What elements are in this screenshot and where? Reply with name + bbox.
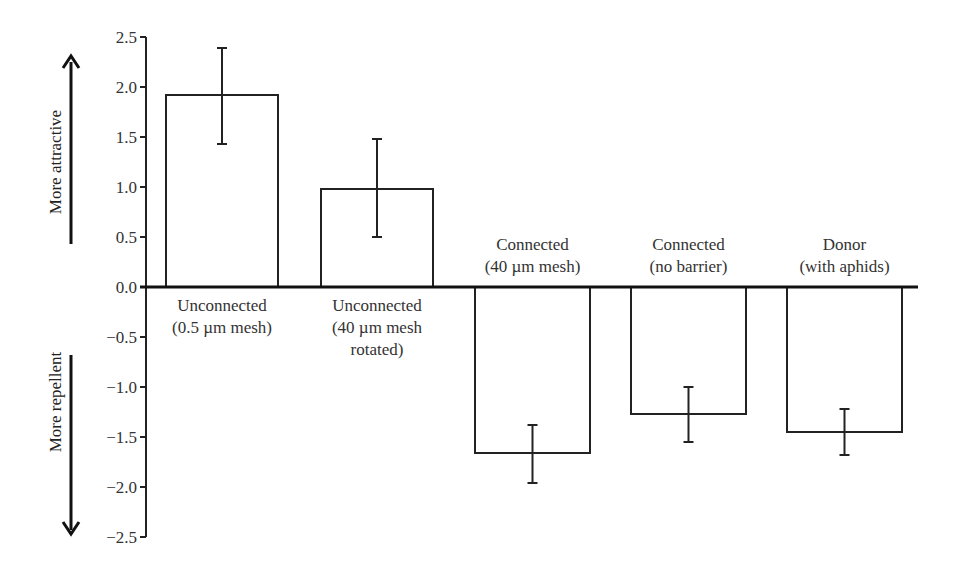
y-tick-label: −2.5 bbox=[106, 528, 137, 547]
more-attractive-label: More attractive bbox=[46, 110, 65, 214]
direction-annotations: More attractiveMore repellent bbox=[46, 56, 79, 534]
category-label: Unconnected(40 µm meshrotated) bbox=[332, 296, 423, 359]
bar-group bbox=[166, 48, 278, 287]
y-tick-label: 1.5 bbox=[116, 128, 137, 147]
y-tick-label: 0.0 bbox=[116, 278, 137, 297]
more-repellent-label: More repellent bbox=[46, 351, 65, 452]
bar-group bbox=[321, 139, 433, 287]
y-tick-label: −1.5 bbox=[106, 428, 137, 447]
y-tick-label: 1.0 bbox=[116, 178, 137, 197]
category-label: Donor(with aphids) bbox=[799, 235, 889, 276]
y-tick-label: 2.5 bbox=[116, 28, 137, 47]
y-tick-label: −1.0 bbox=[106, 378, 137, 397]
y-tick-label: −2.0 bbox=[106, 478, 137, 497]
category-label: Connected(no barrier) bbox=[650, 235, 728, 276]
category-label: Connected(40 µm mesh) bbox=[485, 235, 581, 276]
y-tick-label: 2.0 bbox=[116, 78, 137, 97]
y-tick-label: −0.5 bbox=[106, 328, 137, 347]
bar-group bbox=[787, 287, 902, 455]
bar-chart: More attractiveMore repellent 2.52.01.51… bbox=[0, 0, 953, 570]
bar-group bbox=[475, 287, 590, 483]
bar-group bbox=[631, 287, 746, 442]
y-tick-label: 0.5 bbox=[116, 228, 137, 247]
category-label: Unconnected(0.5 µm mesh) bbox=[172, 296, 272, 337]
